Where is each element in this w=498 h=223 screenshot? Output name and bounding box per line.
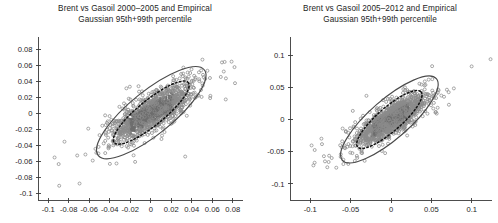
y-tick-label: -0.08 — [15, 173, 32, 182]
plot-area-left: 0.080.060.040.020-0.02-0.04-0.06-0.08-0.… — [0, 0, 252, 223]
x-tick-label: -0.05 — [342, 205, 359, 214]
x-tick-label: 0.08 — [225, 205, 240, 214]
y-tick-label: -0.1 — [271, 180, 284, 189]
y-tick-label: -0.04 — [15, 141, 32, 150]
y-tick-label: -0.06 — [15, 157, 32, 166]
y-tick-label: 0.02 — [18, 93, 33, 102]
x-tick-label: -0.04 — [101, 205, 118, 214]
y-tick-label: -0.02 — [15, 125, 32, 134]
x-tick-label: -0.1 — [42, 205, 55, 214]
y-tick-label: 0 — [28, 109, 32, 118]
x-tick-label: 0.04 — [184, 205, 199, 214]
y-tick-label: 0.05 — [270, 83, 285, 92]
x-tick-label: 0 — [389, 205, 393, 214]
x-tick-label: -0.1 — [304, 205, 317, 214]
plot-area-right: 0.10.050-0.05-0.1-0.1-0.0500.050.1 — [252, 0, 498, 223]
x-tick-label: 0.02 — [164, 205, 179, 214]
x-tick-label: -0.06 — [81, 205, 98, 214]
x-tick-label: -0.02 — [122, 205, 139, 214]
scatter-panel-left: Brent vs Gasoil 2000–2005 and Empirical … — [0, 0, 252, 223]
y-tick-label: 0 — [280, 115, 284, 124]
x-tick-label: -0.08 — [60, 205, 77, 214]
y-tick-label: -0.05 — [267, 147, 284, 156]
y-tick-label: 0.06 — [18, 61, 33, 70]
y-tick-label: 0.04 — [18, 77, 33, 86]
scatter-panel-right: Brent vs Gasoil 2005–2012 and Empirical … — [252, 0, 498, 223]
x-tick-label: 0.1 — [467, 205, 478, 214]
y-tick-label: -0.1 — [19, 189, 32, 198]
figure-two-panel-scatter: Brent vs Gasoil 2000–2005 and Empirical … — [0, 0, 498, 223]
x-tick-label: 0.06 — [205, 205, 220, 214]
y-tick-label: 0.08 — [18, 45, 33, 54]
x-tick-label: 0.05 — [424, 205, 439, 214]
y-tick-label: 0.1 — [274, 51, 285, 60]
x-tick-label: 0 — [149, 205, 153, 214]
